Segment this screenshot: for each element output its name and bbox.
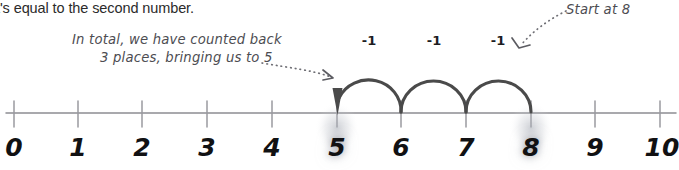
tick-label-6: 6 bbox=[392, 133, 409, 162]
number-line-illustration: t's equal to the second number. In total… bbox=[0, 0, 679, 170]
tick-label-0: 0 bbox=[5, 133, 22, 162]
hop-arcs bbox=[339, 80, 531, 112]
annotation-start-at-8: Start at 8 bbox=[566, 2, 630, 17]
hop-label-3: -1 bbox=[491, 33, 505, 48]
hop-arc-7-to-6 bbox=[401, 81, 466, 112]
tick-label-4: 4 bbox=[263, 133, 280, 162]
annotation-counted-back-line2: 3 places, bringing us to 5 bbox=[100, 50, 273, 65]
tick-label-3: 3 bbox=[198, 133, 215, 162]
tick-label-2: 2 bbox=[133, 133, 150, 162]
annotation-counted-back-line1: In total, we have counted back bbox=[72, 32, 282, 47]
tick-label-1: 1 bbox=[69, 133, 86, 162]
hop-label-2: -1 bbox=[427, 33, 441, 48]
tick-label-5: 5 bbox=[328, 133, 345, 162]
tick-label-8: 8 bbox=[522, 133, 539, 162]
lesson-sentence: t's equal to the second number. bbox=[0, 0, 194, 16]
leader-line-counted-back bbox=[262, 63, 331, 77]
tick-label-10: 10 bbox=[645, 133, 679, 162]
hop-label-1: -1 bbox=[362, 33, 376, 48]
leader-arrowhead-start-at-8 bbox=[512, 38, 530, 48]
tick-label-7: 7 bbox=[457, 133, 474, 162]
leader-line-start-at-8 bbox=[521, 11, 566, 45]
tick-label-9: 9 bbox=[586, 133, 603, 162]
